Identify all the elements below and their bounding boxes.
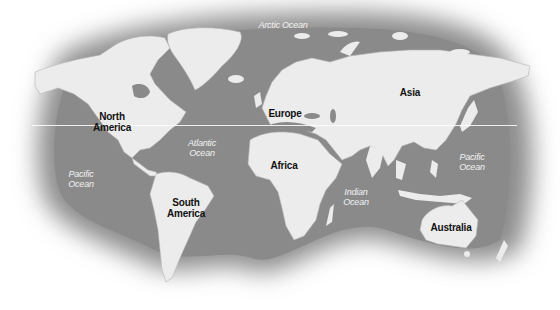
label-europe: Europe [268,108,301,119]
label-indian-ocean: Indian Ocean [343,187,369,207]
label-north-america: North America [93,111,131,133]
label-south-america: South America [167,197,205,219]
label-arctic-ocean: Arctic Ocean [258,20,307,30]
label-pacific-ocean-east: Pacific Ocean [459,152,485,172]
svalbard [294,33,310,39]
new-siberian-islands [450,49,470,55]
world-map: North America South America Europe Afric… [0,0,560,310]
label-asia: Asia [400,87,420,98]
caspian-sea [330,109,336,123]
iceland [228,75,244,83]
label-africa: Africa [270,160,297,171]
label-australia: Australia [431,222,472,233]
severnaya-zemlya [392,32,408,40]
black-sea [304,113,320,119]
tasmania [464,251,470,257]
franz-josef-land [328,31,348,37]
label-atlantic-ocean: Atlantic Ocean [188,138,216,158]
label-pacific-ocean-west: Pacific Ocean [68,169,94,189]
